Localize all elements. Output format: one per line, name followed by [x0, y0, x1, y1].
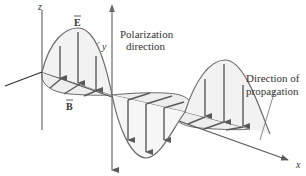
propagation-label-2: propagation	[246, 85, 299, 97]
x-axis-label: x	[295, 159, 301, 170]
polarization-label-2: direction	[126, 40, 166, 52]
em-wave-diagram: z y x E B Polarization direction Directi…	[0, 0, 306, 176]
y-axis-label: y	[101, 41, 107, 52]
z-axis-label: z	[37, 1, 42, 12]
b-field-label: B	[66, 101, 73, 112]
propagation-label-1: Direction of	[246, 72, 300, 84]
polarization-label-1: Polarization	[120, 28, 174, 40]
e-field-label: E	[74, 17, 81, 28]
